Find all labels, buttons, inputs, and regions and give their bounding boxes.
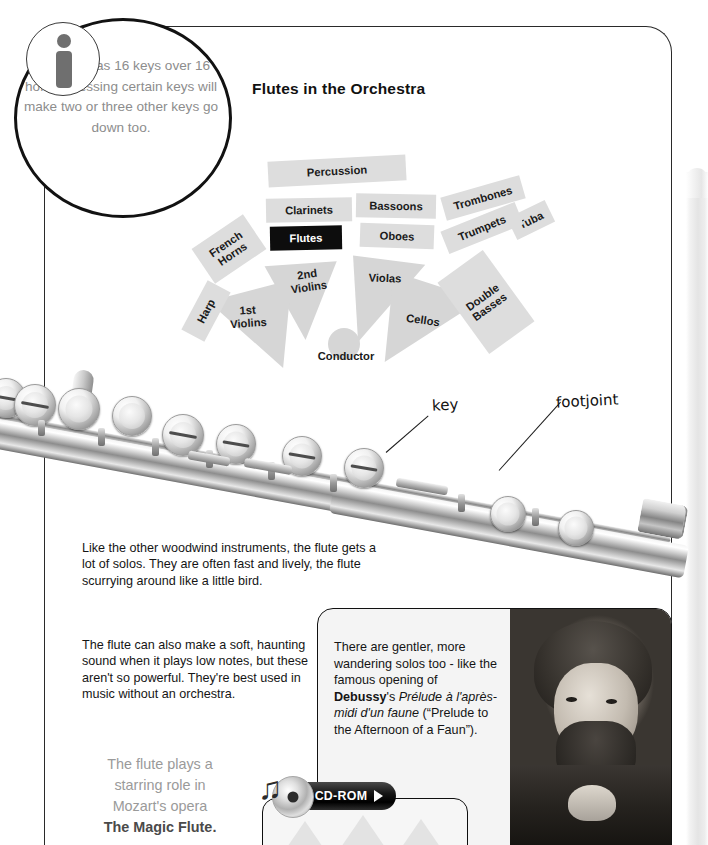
flute-key (162, 414, 204, 456)
info-icon (26, 22, 100, 96)
mozart-note-opera-title: The Magic Flute (104, 819, 213, 835)
flute-key-inner (565, 517, 588, 540)
mozart-note-period: . (212, 819, 216, 835)
section-label-violas: Violas (360, 271, 410, 285)
page-edge-strip-cap (686, 168, 708, 198)
section-bassoons: Bassoons (356, 193, 436, 218)
section-french-horns: French Horns (192, 214, 267, 283)
mozart-note-line-2: starring role in (114, 777, 205, 793)
debussy-text-part-2: 's (387, 690, 399, 704)
flute-post (38, 420, 45, 436)
portrait-eye-left (566, 697, 577, 702)
debussy-text-part-1: There are gentler, more wandering solos … (334, 640, 497, 687)
flute-key-inner (497, 503, 520, 526)
cd-panel-triangle (337, 815, 389, 845)
info-icon-stem (56, 51, 72, 88)
portrait-eye-right (606, 699, 617, 704)
flute-key (558, 510, 594, 546)
book-page: The flute has 16 keys over 16 holes. Pre… (0, 0, 708, 845)
section-clarinets: Clarinets (266, 197, 352, 222)
conductor-label: Conductor (298, 350, 394, 362)
cd-panel-triangle (395, 819, 447, 845)
play-triangle-icon (374, 790, 383, 802)
section-double-basses: Double Basses (437, 250, 534, 354)
info-icon-dot (57, 34, 71, 48)
mozart-note-line-1: The flute plays a (107, 756, 213, 772)
debussy-work-title-1: Prélude (399, 690, 442, 704)
mozart-note: The flute plays a starring role in Mozar… (80, 754, 240, 838)
flute-post (98, 428, 105, 446)
flute-key (14, 384, 56, 426)
flute-post (532, 508, 539, 526)
debussy-sidebar-text: There are gentler, more wandering solos … (334, 639, 502, 739)
body-paragraph-2: The flute can also make a soft, haunting… (82, 637, 314, 703)
section-label-first-violins: 1st Violins (221, 302, 275, 331)
page-edge-strip-top-mask (686, 0, 708, 172)
cd-panel-triangle (279, 821, 331, 845)
flute-key (344, 448, 384, 488)
portrait-collar (568, 785, 616, 821)
mozart-note-line-3: Mozart's opera (113, 798, 208, 814)
music-note-icon: ♫ (258, 772, 282, 804)
flute-photo (0, 362, 708, 548)
section-flutes-highlighted: Flutes (270, 225, 342, 250)
cd-rom-label: CD-ROM (315, 789, 368, 803)
debussy-portrait-photo (510, 609, 672, 845)
callout-label-key: key (432, 395, 459, 414)
page-title: Flutes in the Orchestra (252, 80, 425, 98)
section-percussion: Percussion (267, 154, 406, 187)
flute-post (330, 474, 337, 492)
flute-key (490, 496, 526, 532)
flute-key (112, 396, 152, 436)
debussy-composer-name: Debussy (334, 690, 387, 704)
flute-post (458, 494, 465, 512)
flute-post (152, 438, 159, 456)
section-oboes: Oboes (360, 223, 435, 250)
flute-key (58, 388, 100, 430)
flute-key-inner (66, 396, 93, 423)
flute-key-inner (119, 403, 145, 429)
callout-label-footjoint: footjoint (556, 390, 619, 411)
orchestra-seating-diagram: Percussion Clarinets Bassoons Trombones … (170, 150, 570, 380)
